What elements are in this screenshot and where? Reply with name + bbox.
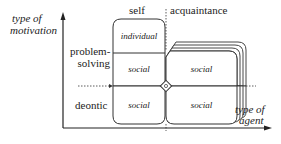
row-header-deontic: deontic (75, 99, 107, 111)
cell-self-social-deontic: social (113, 100, 165, 110)
y-axis-label-line2: motivation (10, 24, 57, 36)
cell-acquaintance-social-deontic: social (166, 100, 237, 110)
column-header-self: self (129, 4, 145, 16)
column-header-acquaintance: acquaintance (170, 4, 227, 16)
row-header-problem-solving-line1: problem- (70, 45, 110, 57)
cell-acquaintance-social-problem-solving: social (166, 64, 237, 74)
cell-self-individual: individual (113, 31, 165, 41)
x-axis-label-line2: agent (239, 114, 263, 126)
row-header-problem-solving-line2: solving (70, 57, 110, 69)
cell-self-social-problem-solving: social (113, 64, 165, 74)
y-axis-label-line1: type of (12, 12, 42, 24)
